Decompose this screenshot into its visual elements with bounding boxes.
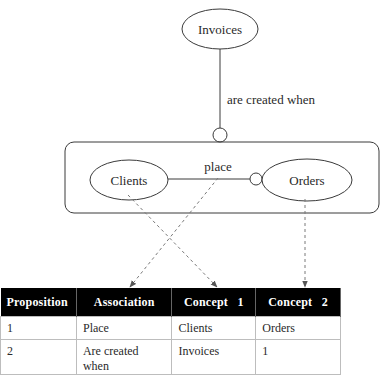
header-proposition: Proposition	[1, 288, 77, 317]
cell-proposition: 2	[1, 340, 77, 375]
header-association: Association	[76, 288, 172, 317]
header-concept-2: Concept 2	[256, 288, 341, 317]
cell-proposition: 1	[1, 317, 77, 340]
cell-concept-1: Invoices	[172, 340, 256, 375]
cell-association: Place	[76, 317, 172, 340]
cell-concept-1: Clients	[172, 317, 256, 340]
node-clients[interactable]: Clients	[90, 160, 168, 200]
table-row: 1 Place Clients Orders	[1, 317, 341, 340]
cell-concept-2: Orders	[256, 317, 341, 340]
node-clients-label: Clients	[111, 173, 148, 188]
header-concept-1: Concept 1	[172, 288, 256, 317]
node-invoices[interactable]: Invoices	[182, 9, 258, 49]
table-row: 2 Are created when Invoices 1	[1, 340, 341, 375]
relation-label-are-created-when: are created when	[227, 92, 316, 107]
relation-end-circle-place	[250, 173, 262, 185]
cell-association: Are created when	[76, 340, 172, 375]
relation-label-place: place	[204, 159, 232, 174]
table-header-row: Proposition Association Concept 1 Concep…	[1, 288, 341, 317]
relation-end-circle-top	[213, 128, 227, 142]
node-orders-label: Orders	[289, 173, 324, 188]
proposition-table: Proposition Association Concept 1 Concep…	[0, 288, 341, 375]
node-invoices-label: Invoices	[198, 22, 242, 37]
node-orders[interactable]: Orders	[262, 159, 352, 201]
cell-concept-2: 1	[256, 340, 341, 375]
